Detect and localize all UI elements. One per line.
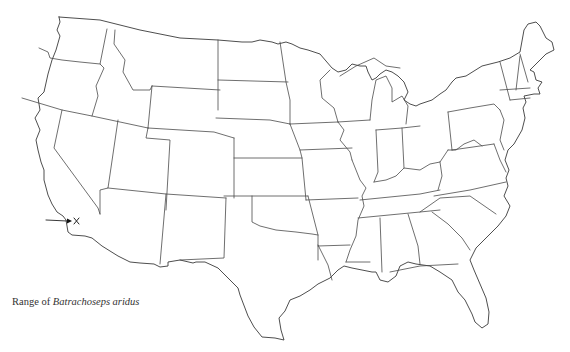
national-outline xyxy=(35,17,554,340)
range-arrow-head xyxy=(67,219,72,224)
range-arrow-line xyxy=(46,220,67,221)
range-marker xyxy=(46,218,79,224)
state-boundaries xyxy=(22,29,530,280)
caption-prefix: Range of xyxy=(12,296,50,307)
map-caption: Range of Batrachoseps aridus xyxy=(12,296,139,307)
caption-species-name: Batrachoseps aridus xyxy=(53,296,140,307)
